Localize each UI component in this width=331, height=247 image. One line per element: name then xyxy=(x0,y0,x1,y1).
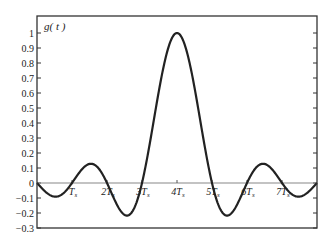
y-tick-label: 0.8 xyxy=(22,58,35,69)
y-tick-label: 0 xyxy=(29,178,34,189)
y-tick-label: 0.9 xyxy=(22,43,35,54)
y-tick-label: 0.6 xyxy=(22,88,35,99)
y-tick-label: −0.2 xyxy=(16,208,34,219)
sinc-pulse-chart: −0.3−0.2−0.100.10.20.30.40.50.60.70.80.9… xyxy=(0,0,331,247)
y-tick-label: 0.3 xyxy=(22,133,35,144)
x-tick-label: 7Ts xyxy=(276,186,290,199)
y-tick-label: 0.4 xyxy=(22,118,35,129)
x-tick-label: 4Ts xyxy=(171,186,185,199)
y-tick-label: 0.5 xyxy=(22,103,35,114)
y-tick-label: −0.1 xyxy=(16,193,34,204)
x-tick-label: Ts xyxy=(69,186,78,199)
y-label: g( t ) xyxy=(44,20,66,33)
y-tick-label: −0.3 xyxy=(16,223,34,234)
y-tick-label: 0.2 xyxy=(22,148,35,159)
y-tick-label: 0.7 xyxy=(22,73,35,84)
y-tick-label: 1 xyxy=(29,28,34,39)
y-tick-label: 0.1 xyxy=(22,163,35,174)
